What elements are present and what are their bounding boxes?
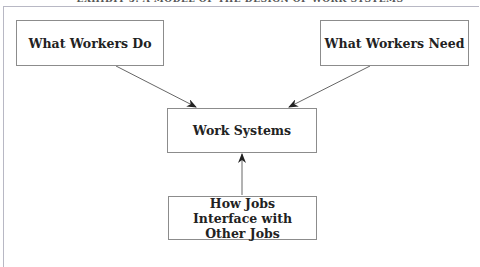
arrow-do-to-systems bbox=[116, 66, 196, 107]
node-what-workers-do: What Workers Do bbox=[16, 20, 164, 66]
node-label: What Workers Do bbox=[28, 36, 151, 51]
node-label: Work Systems bbox=[193, 123, 291, 138]
arrow-need-to-systems bbox=[289, 66, 370, 107]
node-how-jobs-interface: How Jobs Interface with Other Jobs bbox=[168, 196, 317, 240]
node-what-workers-need: What Workers Need bbox=[320, 20, 469, 66]
node-label: How Jobs Interface with Other Jobs bbox=[183, 196, 302, 241]
node-work-systems: Work Systems bbox=[167, 108, 317, 153]
node-label: What Workers Need bbox=[325, 36, 465, 51]
